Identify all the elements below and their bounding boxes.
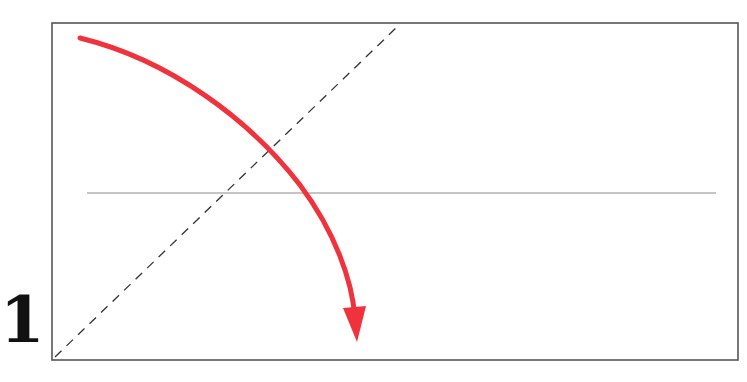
- fold-arrow-icon: [80, 38, 366, 342]
- fold-diagram: [0, 0, 747, 382]
- paper-frame: [52, 23, 738, 360]
